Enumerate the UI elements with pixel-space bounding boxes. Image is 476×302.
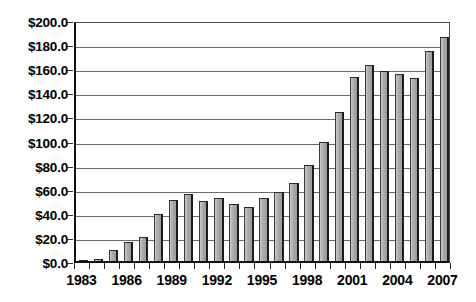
bar	[304, 165, 313, 261]
bar	[184, 194, 193, 261]
x-tick-mark	[179, 263, 180, 269]
bar	[410, 78, 419, 261]
x-tick-label: 2007	[427, 272, 457, 288]
bars-layer	[76, 23, 449, 261]
y-tick-mark	[68, 118, 73, 119]
x-tick-mark	[134, 263, 135, 269]
x-tick-mark	[149, 263, 150, 269]
bar	[154, 214, 163, 261]
x-tick-mark	[74, 263, 75, 269]
bar	[124, 242, 133, 261]
bar	[425, 51, 434, 261]
bar	[169, 200, 178, 261]
bar-chart: $0.0$20.0$40.0$60.0$80.0$100.0$120.0$140…	[0, 0, 476, 302]
x-tick-label: 1983	[66, 272, 96, 288]
bar	[244, 207, 253, 261]
x-tick-mark	[224, 263, 225, 269]
bar	[274, 192, 283, 261]
bar	[365, 65, 374, 261]
x-tick-label: 1995	[247, 272, 277, 288]
bar	[229, 204, 238, 261]
bar	[380, 71, 389, 261]
y-tick-label: $100.0	[28, 135, 68, 150]
x-tick-mark	[390, 263, 391, 269]
x-tick-mark	[119, 263, 120, 269]
bar	[79, 260, 88, 261]
x-tick-mark	[300, 263, 301, 269]
bar	[94, 259, 103, 261]
y-tick-label: $40.0	[35, 207, 68, 222]
y-tick-mark	[68, 94, 73, 95]
x-tick-label: 2004	[382, 272, 412, 288]
y-tick-label: $20.0	[35, 231, 68, 246]
x-tick-mark	[450, 263, 451, 269]
y-tick-mark	[68, 239, 73, 240]
y-tick-mark	[68, 215, 73, 216]
bar	[319, 142, 328, 261]
y-tick-mark	[68, 263, 73, 264]
bar	[214, 198, 223, 261]
bar	[335, 112, 344, 261]
y-tick-mark	[68, 46, 73, 47]
y-tick-label: $60.0	[35, 183, 68, 198]
y-tick-mark	[68, 70, 73, 71]
y-tick-label: $0.0	[43, 256, 68, 271]
x-tick-mark	[239, 263, 240, 269]
x-tick-mark	[194, 263, 195, 269]
x-tick-mark	[405, 263, 406, 269]
y-axis: $0.0$20.0$40.0$60.0$80.0$100.0$120.0$140…	[0, 0, 72, 302]
x-tick-label: 1998	[292, 272, 322, 288]
x-tick-label: 1989	[157, 272, 187, 288]
y-tick-label: $180.0	[28, 39, 68, 54]
y-tick-label: $160.0	[28, 63, 68, 78]
y-tick-mark	[68, 22, 73, 23]
plot-area	[74, 22, 450, 263]
x-tick-mark	[270, 263, 271, 269]
x-tick-mark	[375, 263, 376, 269]
bar	[289, 183, 298, 261]
bar	[139, 237, 148, 261]
y-tick-label: $200.0	[28, 15, 68, 30]
y-tick-label: $120.0	[28, 111, 68, 126]
x-tick-label: 2001	[337, 272, 367, 288]
bar	[199, 201, 208, 261]
bar	[440, 37, 449, 261]
x-tick-mark	[360, 263, 361, 269]
bar	[395, 74, 404, 261]
x-tick-mark	[209, 263, 210, 269]
x-tick-label: 1992	[202, 272, 232, 288]
y-tick-mark	[68, 167, 73, 168]
x-tick-mark	[420, 263, 421, 269]
x-tick-mark	[345, 263, 346, 269]
y-tick-mark	[68, 143, 73, 144]
x-tick-mark	[285, 263, 286, 269]
bar	[350, 77, 359, 261]
x-tick-mark	[89, 263, 90, 269]
x-tick-mark	[315, 263, 316, 269]
y-tick-label: $80.0	[35, 159, 68, 174]
x-tick-mark	[254, 263, 255, 269]
x-tick-mark	[435, 263, 436, 269]
bar	[259, 198, 268, 261]
y-tick-label: $140.0	[28, 87, 68, 102]
x-axis: 198319861989199219951998200120042007	[0, 272, 476, 296]
bar	[109, 250, 118, 261]
x-tick-mark	[164, 263, 165, 269]
x-tick-label: 1986	[111, 272, 141, 288]
y-tick-mark	[68, 191, 73, 192]
x-tick-mark	[104, 263, 105, 269]
x-tick-mark	[330, 263, 331, 269]
